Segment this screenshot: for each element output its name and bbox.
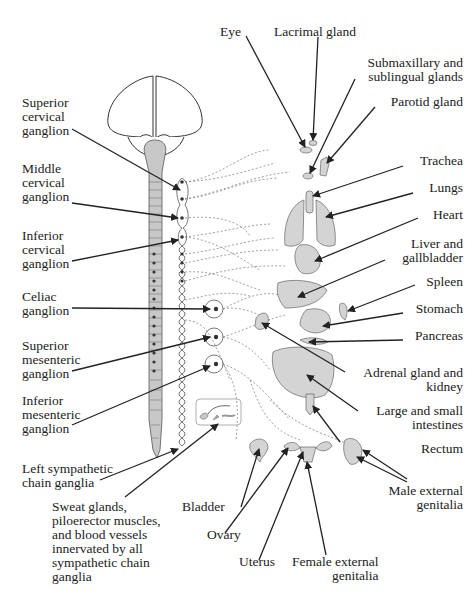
label-heart: Heart (433, 208, 463, 222)
organ-illustrations (250, 141, 362, 465)
label-left-sympathetic-chain: Left sympathetic chain ganglia (22, 462, 113, 490)
label-sweat-glands: Sweat glands, piloerector muscles, and b… (52, 500, 161, 584)
label-eye: Eye (220, 25, 241, 39)
label-middle-cervical-ganglion: Middle cervical ganglion (22, 162, 69, 204)
label-lungs: Lungs (429, 181, 463, 195)
rectum-organ (306, 394, 314, 415)
label-inferior-cervical-ganglion: Inferior cervical ganglion (22, 229, 69, 271)
label-spleen: Spleen (426, 275, 463, 289)
label-rectum: Rectum (421, 442, 463, 456)
label-stomach: Stomach (416, 302, 463, 316)
label-uterus: Uterus (239, 555, 275, 569)
label-celiac-ganglion: Celiac ganglion (22, 290, 69, 318)
label-intestines: Large and small intestines (376, 404, 463, 432)
ovary-right (316, 442, 332, 451)
lung-left (285, 200, 304, 246)
kidney-organ (255, 313, 268, 329)
lung-right (316, 200, 335, 246)
label-lacrimal-gland: Lacrimal gland (274, 25, 356, 39)
label-superior-cervical-ganglion: Superior cervical ganglion (22, 96, 69, 138)
label-trachea: Trachea (420, 154, 463, 168)
label-submaxillary-glands: Submaxillary and sublingual glands (367, 56, 463, 84)
label-bladder: Bladder (182, 500, 225, 514)
spleen-organ (339, 303, 347, 320)
stomach-organ (300, 309, 330, 333)
trachea-organ (306, 191, 313, 213)
label-superior-mesenteric-ganglion: Superior mesenteric ganglion (22, 339, 80, 381)
label-pancreas: Pancreas (415, 329, 463, 343)
label-ovary: Ovary (207, 528, 241, 542)
label-male-genitalia: Male external genitalia (388, 484, 463, 512)
label-liver-gallbladder: Liver and gallbladder (402, 237, 463, 265)
male-genitalia-organ (344, 438, 362, 464)
label-parotid-gland: Parotid gland (391, 95, 463, 109)
submaxillary-organ (303, 173, 313, 179)
label-inferior-mesenteric-ganglion: Inferior mesenteric ganglion (22, 394, 80, 436)
sweat-gland-illustration (196, 399, 241, 425)
spinal-cord (144, 140, 166, 458)
eye-organ (300, 147, 312, 153)
label-female-genitalia: Female external genitalia (292, 555, 379, 583)
liver-organ (277, 280, 327, 308)
intestines-organ (272, 347, 334, 398)
label-adrenal-kidney: Adrenal gland and kidney (363, 366, 463, 394)
lacrimal-organ (309, 141, 317, 146)
heart-organ (295, 245, 320, 274)
parotid-organ (320, 157, 329, 176)
